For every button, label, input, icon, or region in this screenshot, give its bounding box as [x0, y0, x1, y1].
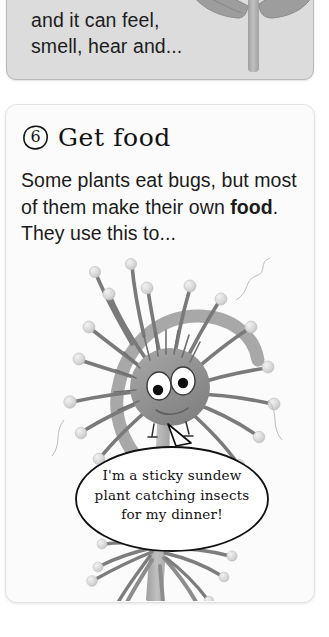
- page-root: and it can feel, smell, hear and... 6 Ge…: [0, 0, 329, 637]
- section-title: Get food: [58, 125, 171, 150]
- section-heading: 6 Get food: [22, 124, 171, 151]
- previous-section-card: and it can feel, smell, hear and...: [6, 0, 314, 80]
- section-card-get-food[interactable]: 6 Get food Some plants eat bugs, but mos…: [5, 104, 315, 603]
- speech-bubble-text: I'm a sticky sundew plant catching insec…: [84, 466, 260, 525]
- step-number-badge: 6: [22, 124, 49, 151]
- section-body-text: Some plants eat bugs, but most of them m…: [21, 167, 303, 247]
- section-card-inner: 6 Get food Some plants eat bugs, but mos…: [6, 105, 314, 602]
- previous-section-text: and it can feel, smell, hear and...: [31, 7, 271, 59]
- body-text-bold-food: food: [230, 196, 272, 218]
- step-number-text: 6: [30, 129, 40, 145]
